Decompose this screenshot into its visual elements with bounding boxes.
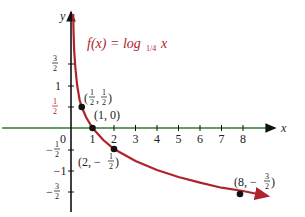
svg-text:2: 2	[53, 64, 57, 73]
svg-text:2: 2	[55, 150, 59, 159]
svg-text:3: 3	[265, 172, 269, 181]
y-tick-label-neg-3-2: − 3 2	[46, 182, 60, 201]
y-tick-label-3-2: 3 2	[52, 54, 58, 73]
svg-text:7: 7	[219, 132, 225, 146]
label-8-neg-3-2: (8, − 3 2 )	[234, 172, 275, 191]
svg-text:6: 6	[197, 132, 203, 146]
log-graph: x y 1 2 3 4 5 6 7 8 0 3 2 1 1	[0, 0, 305, 217]
svg-text:3: 3	[55, 182, 59, 191]
svg-text:(2, −: (2, −	[78, 155, 101, 169]
y-tick-label-1-2: 1 2	[52, 97, 58, 116]
svg-text:8: 8	[240, 132, 246, 146]
label-1-0: (1, 0)	[94, 108, 120, 122]
origin-label: 0	[60, 132, 66, 146]
svg-text:1: 1	[90, 132, 96, 146]
svg-text:2: 2	[109, 162, 113, 171]
label-2-neg-half: (2, − 1 2 )	[78, 152, 119, 171]
svg-text:4: 4	[154, 132, 160, 146]
svg-text:): )	[108, 91, 112, 105]
svg-text:2: 2	[90, 98, 94, 107]
svg-text:3: 3	[53, 54, 57, 63]
svg-text:1: 1	[109, 152, 113, 161]
svg-text:x: x	[160, 36, 168, 51]
y-tick-label-neg-1-2: − 1 2	[46, 140, 60, 159]
svg-text:(8, −: (8, −	[234, 175, 257, 189]
point-1-0	[89, 125, 96, 132]
x-tick-labels: 1 2 3 4 5 6 7 8	[90, 132, 247, 146]
function-label: f(x) = log 1/4 x	[87, 36, 168, 53]
svg-text:2: 2	[265, 182, 269, 191]
svg-text:2: 2	[111, 132, 117, 146]
point-8-neg-3-2	[237, 191, 244, 198]
svg-text:2: 2	[53, 107, 57, 116]
svg-text:5: 5	[176, 132, 182, 146]
svg-text:(: (	[84, 91, 88, 105]
svg-text:1: 1	[53, 97, 57, 106]
y-axis-label: y	[59, 9, 66, 23]
svg-text:,: ,	[96, 91, 99, 105]
x-axis-label: x	[280, 121, 287, 135]
svg-text:2: 2	[102, 98, 106, 107]
y-tick-label-neg-1: −1	[54, 164, 67, 178]
y-tick-label-1: 1	[55, 79, 61, 93]
svg-text:1: 1	[55, 140, 59, 149]
svg-text:−: −	[46, 143, 53, 157]
svg-text:): )	[271, 175, 275, 189]
svg-text:1/4: 1/4	[146, 44, 156, 53]
svg-text:): )	[115, 155, 119, 169]
svg-text:f(x) = log: f(x) = log	[87, 36, 141, 52]
svg-text:2: 2	[55, 192, 59, 201]
svg-text:3: 3	[133, 132, 139, 146]
label-half-half: ( 1 2 , 1 2 )	[84, 88, 112, 107]
svg-text:−: −	[46, 185, 53, 199]
svg-text:1: 1	[90, 88, 94, 97]
svg-text:1: 1	[102, 88, 106, 97]
